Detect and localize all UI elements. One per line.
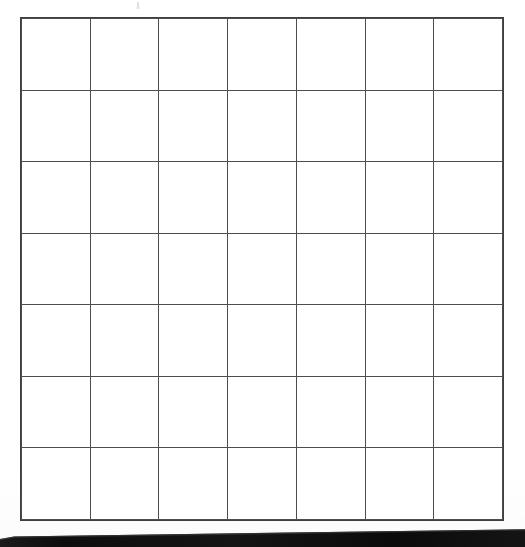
- grid-cell[interactable]: [296, 233, 365, 305]
- grid-cell[interactable]: [90, 19, 159, 91]
- grid-cell[interactable]: [365, 448, 434, 520]
- grid-cell[interactable]: [296, 376, 365, 448]
- scanned-page: [0, 0, 525, 547]
- grid-cell[interactable]: [296, 305, 365, 377]
- grid-cell[interactable]: [22, 162, 91, 234]
- grid-cell[interactable]: [159, 19, 228, 91]
- grid-cell[interactable]: [22, 90, 91, 162]
- table-row: [22, 90, 503, 162]
- grid-cell[interactable]: [90, 448, 159, 520]
- grid-cell[interactable]: [159, 233, 228, 305]
- grid-cell[interactable]: [90, 376, 159, 448]
- grid-cell[interactable]: [22, 233, 91, 305]
- grid-cell[interactable]: [22, 448, 91, 520]
- table-row: [22, 19, 503, 91]
- table-row: [22, 376, 503, 448]
- grid-cell[interactable]: [434, 90, 503, 162]
- grid-cell[interactable]: [22, 305, 91, 377]
- grid-cell[interactable]: [434, 305, 503, 377]
- grid-body: [22, 19, 503, 520]
- grid-cell[interactable]: [159, 162, 228, 234]
- table-row: [22, 233, 503, 305]
- grid-cell[interactable]: [228, 90, 297, 162]
- blank-grid-table[interactable]: [21, 18, 503, 520]
- grid-cell[interactable]: [228, 448, 297, 520]
- grid-cell[interactable]: [365, 90, 434, 162]
- grid-cell[interactable]: [365, 233, 434, 305]
- grid-cell[interactable]: [22, 376, 91, 448]
- grid-cell[interactable]: [90, 233, 159, 305]
- grid-cell[interactable]: [159, 90, 228, 162]
- grid-cell[interactable]: [296, 90, 365, 162]
- grid-cell[interactable]: [228, 162, 297, 234]
- stray-speck-mark-icon: [137, 2, 139, 9]
- grid-cell[interactable]: [365, 19, 434, 91]
- grid-cell[interactable]: [434, 19, 503, 91]
- grid-cell[interactable]: [434, 162, 503, 234]
- grid-cell[interactable]: [296, 448, 365, 520]
- grid-cell[interactable]: [434, 233, 503, 305]
- grid-cell[interactable]: [228, 19, 297, 91]
- grid-cell[interactable]: [365, 376, 434, 448]
- grid-cell[interactable]: [365, 305, 434, 377]
- table-row: [22, 305, 503, 377]
- grid-cell[interactable]: [434, 376, 503, 448]
- grid-cell[interactable]: [228, 305, 297, 377]
- table-row: [22, 448, 503, 520]
- grid-cell[interactable]: [159, 448, 228, 520]
- grid-cell[interactable]: [228, 376, 297, 448]
- grid-cell[interactable]: [365, 162, 434, 234]
- page-edge-shadow-bar: [0, 527, 525, 547]
- grid-cell[interactable]: [159, 305, 228, 377]
- grid-cell[interactable]: [22, 19, 91, 91]
- table-row: [22, 162, 503, 234]
- grid-cell[interactable]: [228, 233, 297, 305]
- grid-cell[interactable]: [90, 90, 159, 162]
- grid-cell[interactable]: [159, 376, 228, 448]
- grid-cell[interactable]: [434, 448, 503, 520]
- grid-cell[interactable]: [90, 162, 159, 234]
- grid-cell[interactable]: [296, 19, 365, 91]
- grid-cell[interactable]: [90, 305, 159, 377]
- grid-cell[interactable]: [296, 162, 365, 234]
